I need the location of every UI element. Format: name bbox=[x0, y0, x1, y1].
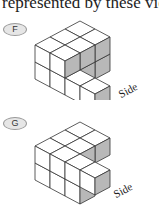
isometric-figure-g bbox=[0, 100, 159, 205]
